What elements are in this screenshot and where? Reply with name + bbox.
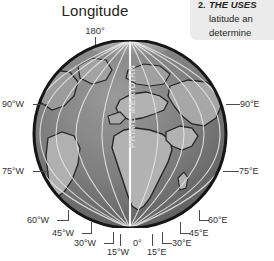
meridian-label-45E: 45°E	[189, 229, 209, 238]
meridian-label-180: 180°	[0, 26, 190, 36]
callout-line-1: THE USES	[209, 0, 257, 10]
callout-text-group: 2. THE USES latitude an determine	[190, 0, 274, 41]
meridian-label-30W: 30°W	[74, 239, 96, 248]
callout-line-3: determine	[209, 27, 251, 38]
meridian-label-15W: 15°W	[107, 248, 129, 257]
tick-75E	[223, 171, 239, 172]
tick-60W-v	[68, 210, 69, 221]
meridian-label-60E: 60°E	[208, 216, 228, 225]
tick-75W	[33, 171, 49, 172]
figure-root: Longitude 180°	[0, 0, 274, 261]
tick-45E-h	[180, 233, 190, 234]
meridian-label-45W: 45°W	[52, 229, 74, 238]
figure-title: Longitude	[0, 2, 190, 19]
tick-30W-v	[113, 232, 114, 244]
prime-meridian-caption: PRIME MERIDIAN	[127, 64, 137, 148]
meridian-label-30E: 30°E	[172, 239, 192, 248]
meridian-label-90E: 90°E	[240, 100, 260, 109]
meridian-label-60W: 60°W	[27, 216, 49, 225]
tick-45E-v	[180, 222, 181, 234]
meridian-label-0: 0°	[133, 239, 142, 248]
tick-30E-h	[162, 243, 172, 244]
tick-90W	[33, 104, 47, 105]
tick-90E	[226, 104, 240, 105]
tick-60E-h	[199, 220, 209, 221]
meridian-label-75E: 75°E	[239, 167, 259, 176]
tick-15W-v	[120, 234, 121, 246]
meridian-label-15E: 15°E	[147, 248, 167, 257]
meridian-label-75W: 75°W	[2, 167, 24, 176]
tick-45W-v	[91, 222, 92, 234]
tick-15E-v	[152, 234, 153, 246]
meridian-label-90W: 90°W	[2, 100, 24, 109]
tick-30E-v	[162, 232, 163, 244]
callout-number: 2.	[198, 0, 206, 10]
tick-60E-v	[199, 210, 200, 221]
callout-line-2: latitude an	[209, 13, 253, 24]
